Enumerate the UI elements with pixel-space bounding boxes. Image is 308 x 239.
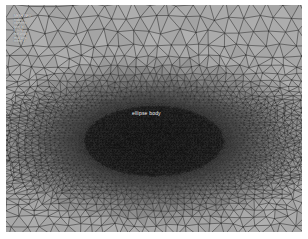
mesh-node [136, 87, 137, 88]
mesh-node [81, 189, 82, 190]
mesh-node [290, 179, 291, 180]
mesh-node [204, 194, 205, 195]
mesh-node [230, 172, 231, 173]
mesh-node [110, 203, 111, 204]
mesh-node [241, 135, 242, 136]
mesh-node [8, 155, 9, 156]
mesh-node [10, 123, 11, 124]
mesh-node [244, 172, 245, 173]
mesh-node [72, 110, 73, 111]
mesh-node [219, 65, 220, 66]
mesh-node [54, 117, 55, 118]
mesh-node [95, 186, 96, 187]
mesh-node [255, 73, 256, 74]
mesh-node [124, 96, 125, 97]
mesh-node [171, 44, 172, 45]
mesh-node [40, 159, 41, 160]
mesh-node [29, 108, 30, 109]
mesh-node [64, 133, 65, 134]
mesh-node [226, 72, 227, 73]
mesh-node [216, 185, 217, 186]
mesh-node [242, 102, 243, 103]
mesh-node [87, 203, 88, 204]
mesh-node [262, 137, 263, 138]
mesh-node [42, 118, 43, 119]
mesh-node [60, 179, 61, 180]
mesh-node [47, 162, 48, 163]
mesh-node [61, 178, 62, 179]
mesh-node [293, 110, 294, 111]
mesh-node [121, 209, 122, 210]
mesh-node [46, 127, 47, 128]
mesh-node [45, 107, 46, 108]
mesh-node [48, 216, 49, 217]
mesh-node [289, 133, 290, 134]
mesh-node [273, 175, 274, 176]
mesh-node [7, 66, 8, 67]
mesh-node [9, 55, 10, 56]
mesh-node [287, 130, 288, 131]
mesh-node [266, 179, 267, 180]
mesh-node [80, 96, 81, 97]
mesh-node [28, 204, 29, 205]
mesh-node [156, 226, 157, 227]
mesh-node [244, 120, 245, 121]
mesh-node [262, 72, 263, 73]
mesh-node [81, 107, 82, 108]
mesh-node [13, 180, 14, 181]
mesh-node [277, 110, 278, 111]
mesh-node [239, 127, 240, 128]
mesh-node [76, 81, 77, 82]
mesh-node [284, 115, 285, 116]
mesh-node [48, 99, 49, 100]
mesh-node [43, 115, 44, 116]
mesh-node [247, 154, 248, 155]
mesh-node [72, 112, 73, 113]
mesh-node [126, 189, 127, 190]
mesh-node [225, 81, 226, 82]
mesh-node [284, 120, 285, 121]
mesh-node [205, 182, 206, 183]
mesh-node [34, 160, 35, 161]
mesh-node [189, 193, 190, 194]
mesh-node [76, 105, 77, 106]
mesh-node [163, 86, 164, 87]
mesh-node [58, 172, 59, 173]
mesh-node [236, 96, 237, 97]
mesh-node [114, 87, 115, 88]
mesh-node [25, 95, 26, 96]
mesh-node [24, 130, 25, 131]
mesh-node [7, 135, 8, 136]
mesh-node [36, 170, 37, 171]
mesh-node [116, 190, 117, 191]
mesh-node [55, 130, 56, 131]
mesh-node [199, 194, 200, 195]
mesh-node [24, 144, 25, 145]
mesh-node [218, 110, 219, 111]
mesh-node [234, 167, 235, 168]
mesh-node [196, 91, 197, 92]
mesh-node [30, 172, 31, 173]
mesh-node [225, 178, 226, 179]
mesh-node [39, 120, 40, 121]
mesh-node [233, 74, 234, 75]
mesh-node [34, 117, 35, 118]
mesh-node [270, 159, 271, 160]
mesh-node [232, 169, 233, 170]
mesh-node [254, 194, 255, 195]
mesh-node [285, 105, 286, 106]
mesh-node [266, 107, 267, 108]
mesh-node [241, 117, 242, 118]
mesh-node [145, 204, 146, 205]
mesh-node [274, 152, 275, 153]
mesh-node [78, 164, 79, 165]
mesh-node [67, 160, 68, 161]
mesh-node [200, 190, 201, 191]
mesh-node [163, 185, 164, 186]
mesh-node [10, 137, 11, 138]
mesh-node [17, 150, 18, 151]
mesh-node [247, 129, 248, 130]
mesh-node [253, 123, 254, 124]
mesh-node [85, 174, 86, 175]
mesh-node [18, 155, 19, 156]
